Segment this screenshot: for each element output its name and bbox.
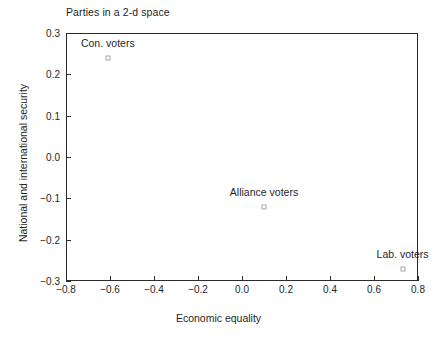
x-axis-tick-label: −0.6	[100, 284, 120, 295]
data-point-marker	[400, 266, 405, 271]
x-axis-tick	[66, 276, 67, 281]
x-axis-tick-label: −0.4	[144, 284, 164, 295]
y-axis-tick-label: 0.2	[46, 69, 60, 80]
y-axis-tick-label: 0.3	[46, 28, 60, 39]
data-point-label: Con. voters	[81, 37, 135, 49]
x-axis-tick	[198, 276, 199, 281]
x-axis-tick	[374, 276, 375, 281]
y-axis-tick	[66, 33, 71, 34]
y-axis-tick	[66, 198, 71, 199]
scatter-chart: Parties in a 2-d space 0.30.20.10.0−0.1−…	[0, 0, 437, 340]
data-point-label: Alliance voters	[230, 186, 298, 198]
y-axis-tick	[66, 281, 71, 282]
chart-title: Parties in a 2-d space	[66, 6, 170, 18]
x-axis-tick	[110, 276, 111, 281]
x-axis-tick-label: 0.0	[235, 284, 249, 295]
data-point-marker	[262, 204, 267, 209]
y-axis-tick	[66, 116, 71, 117]
x-axis-tick	[330, 276, 331, 281]
y-axis-tick	[66, 157, 71, 158]
y-axis-tick-label: 0.0	[46, 152, 60, 163]
y-axis-tick	[66, 240, 71, 241]
x-axis-tick	[286, 276, 287, 281]
x-axis-tick	[242, 276, 243, 281]
y-axis-title: National and international security	[17, 33, 29, 293]
y-axis-tick-label: −0.2	[40, 234, 60, 245]
x-axis-tick-label: −0.8	[56, 284, 76, 295]
x-axis-tick-label: 0.8	[411, 284, 425, 295]
data-point-label: Lab. voters	[377, 248, 429, 260]
y-axis-tick	[66, 74, 71, 75]
x-axis-tick-label: 0.6	[367, 284, 381, 295]
x-axis-tick	[418, 276, 419, 281]
x-axis-tick-label: 0.2	[279, 284, 293, 295]
y-axis-tick-label: −0.1	[40, 193, 60, 204]
data-point-marker	[105, 55, 110, 60]
x-axis-tick	[154, 276, 155, 281]
x-axis-tick-label: −0.2	[188, 284, 208, 295]
x-axis-title: Economic equality	[0, 312, 437, 324]
y-axis-tick-label: 0.1	[46, 110, 60, 121]
x-axis-tick-label: 0.4	[323, 284, 337, 295]
plot-area	[66, 33, 418, 281]
